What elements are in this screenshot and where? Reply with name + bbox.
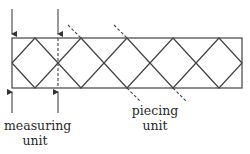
measuring-unit-label-line1: measuring	[4, 118, 66, 133]
zigzag-top	[12, 38, 242, 63]
piecing-unit-label: piecing unit	[128, 103, 182, 133]
piecing-unit-label-line1: piecing	[128, 103, 182, 118]
piecing-unit-marker-bottom-left	[127, 88, 141, 102]
measuring-unit-label-line2: unit	[4, 133, 66, 148]
piecing-unit-marker-top-left	[68, 25, 81, 38]
piecing-unit-marker-bottom-right	[173, 88, 187, 102]
zigzag-bottom	[12, 63, 242, 88]
piecing-unit-label-line2: unit	[128, 118, 182, 133]
measuring-unit-label: measuring unit	[4, 118, 66, 148]
piecing-unit-marker-top-right	[114, 25, 127, 38]
border-strip-outline	[12, 38, 242, 88]
